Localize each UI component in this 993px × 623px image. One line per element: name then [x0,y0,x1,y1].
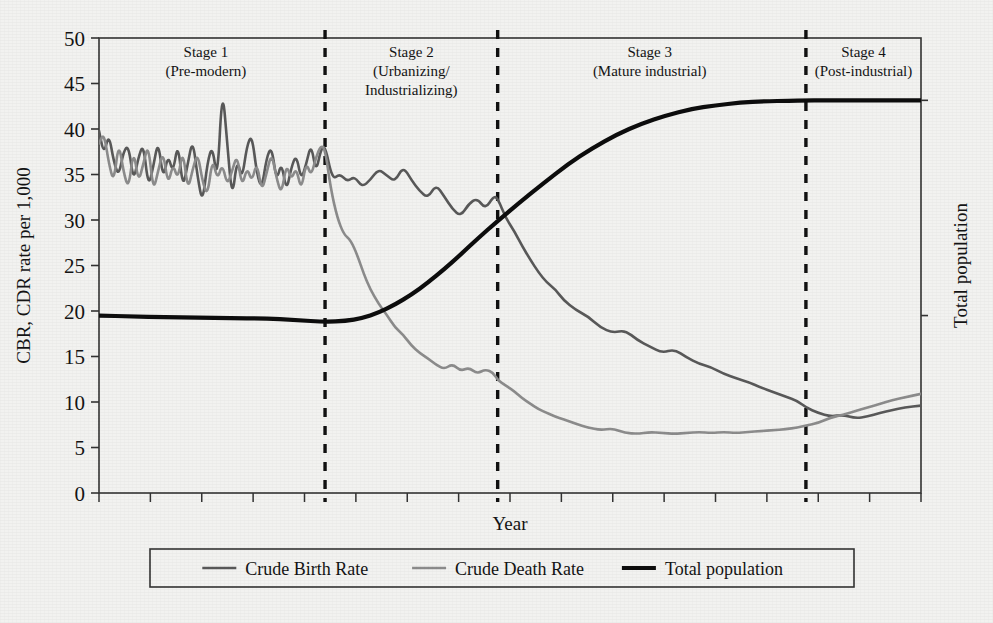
y-tick-label: 15 [64,345,85,369]
x-axis-title: Year [492,513,528,534]
stage-label-line: Stage 3 [627,44,672,60]
stage-label-line: Stage 2 [389,44,434,60]
y-tick-label: 5 [75,436,86,460]
y-tick-label: 0 [75,482,86,506]
demographic-transition-chart: 05101520253035404550Stage 1(Pre-modern)S… [0,0,993,623]
y-axis-title: CBR, CDR rate per 1,000 [13,167,34,363]
stage-label-line: (Post-industrial) [815,63,913,80]
stage-label-line: (Pre-modern) [165,63,246,80]
stage-label-line: (Urbanizing/ [373,63,450,80]
stage-label-line: Stage 1 [184,44,229,60]
y-tick-label: 25 [64,254,85,278]
y-tick-label: 50 [64,27,85,51]
y-tick-label: 10 [64,391,85,415]
stage-label-line: Stage 4 [841,44,886,60]
legend-label-crude-death-rate: Crude Death Rate [455,559,584,579]
y-tick-label: 40 [64,118,85,142]
y-tick-label: 30 [64,209,85,233]
legend-label-total-population: Total population [665,559,783,579]
stage-label-line: Industrializing) [365,82,457,99]
y-tick-label: 45 [64,72,85,96]
legend-label-crude-birth-rate: Crude Birth Rate [245,559,368,579]
y-tick-label: 20 [64,300,85,324]
y-tick-label: 35 [64,163,85,187]
y-axis-title-right: Total population [950,203,971,328]
stage-label-line: (Mature industrial) [593,63,707,80]
